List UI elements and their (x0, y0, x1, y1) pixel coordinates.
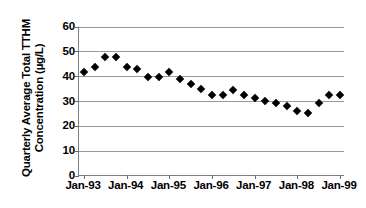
y-axis-title-line-1: Quarterly Average Total TTHM (20, 19, 33, 177)
data-point (314, 98, 322, 106)
y-tick-label: 50 (49, 46, 75, 57)
plot-area (78, 27, 344, 176)
x-tick-label: Jan-94 (108, 179, 143, 192)
y-axis-tick-labels: 0102030405060 (48, 0, 75, 208)
data-point (304, 109, 312, 117)
data-point (325, 91, 333, 99)
data-point (272, 98, 280, 106)
x-axis-tick-labels: Jan-93Jan-94Jan-95Jan-96Jan-97Jan-98Jan-… (78, 179, 344, 199)
data-point (240, 91, 248, 99)
gridline (79, 51, 344, 52)
data-point (282, 102, 290, 110)
y-tick-mark (75, 27, 79, 28)
gridline (79, 101, 344, 102)
data-point (197, 85, 205, 93)
y-tick-mark (75, 76, 79, 77)
x-tick-label: Jan-95 (151, 179, 186, 192)
data-point (154, 72, 162, 80)
data-point (144, 72, 152, 80)
data-point (165, 67, 173, 75)
data-point (133, 65, 141, 73)
gridline (79, 76, 344, 77)
y-tick-mark (75, 176, 79, 177)
y-tick-label: 20 (49, 120, 75, 131)
data-point (101, 53, 109, 61)
y-tick-mark (75, 101, 79, 102)
data-point (218, 91, 226, 99)
y-tick-mark (75, 126, 79, 127)
gridline (79, 126, 344, 127)
data-point (208, 91, 216, 99)
y-axis-title-line-2: Concentration (µg/L) (33, 44, 46, 153)
x-tick-label: Jan-97 (236, 179, 271, 192)
gridline (79, 27, 344, 28)
data-point (336, 91, 344, 99)
data-point (261, 97, 269, 105)
y-axis-title: Quarterly Average Total TTHM Concentrati… (13, 13, 53, 183)
y-tick-mark (75, 51, 79, 52)
x-tick-label: Jan-93 (65, 179, 100, 192)
data-point (186, 80, 194, 88)
gridline (79, 151, 344, 152)
data-point (229, 86, 237, 94)
data-point (90, 62, 98, 70)
y-tick-label: 30 (49, 96, 75, 107)
tthm-scatter-chart: Quarterly Average Total TTHM Concentrati… (0, 0, 366, 208)
data-point (122, 62, 130, 70)
y-tick-label: 10 (49, 145, 75, 156)
x-tick-label: Jan-98 (279, 179, 314, 192)
data-point (293, 107, 301, 115)
data-point (80, 67, 88, 75)
y-tick-label: 60 (49, 21, 75, 32)
y-tick-label: 40 (49, 71, 75, 82)
data-point (112, 53, 120, 61)
x-tick-label: Jan-96 (193, 179, 228, 192)
x-tick-label: Jan-99 (321, 179, 356, 192)
y-tick-mark (75, 151, 79, 152)
